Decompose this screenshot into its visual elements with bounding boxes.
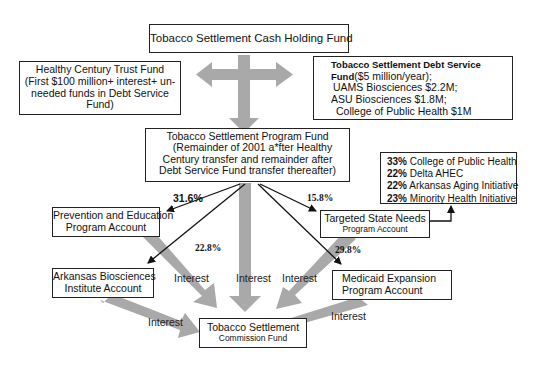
prevention-line-2: Program Account bbox=[53, 222, 159, 234]
allocation-item: 22% Delta AHEC bbox=[387, 168, 516, 180]
interest-label-medicaid: Interest bbox=[331, 310, 366, 322]
allocation-item: 33% College of Public Health bbox=[387, 156, 516, 168]
biosciences-line-1: Arkansas Biosciences bbox=[53, 271, 153, 283]
cash-holding-fund-box: Tobacco Settlement Cash Holding Fund bbox=[149, 24, 349, 53]
debt-service-box: Tobacco Settlement Debt Service Fund($5 … bbox=[313, 56, 513, 120]
interest-label-center: Interest bbox=[236, 272, 271, 284]
cash-holding-fund-title: Tobacco Settlement Cash Holding Fund bbox=[150, 32, 348, 45]
prevention-percentage: 31.6% bbox=[173, 192, 203, 204]
targeted-needs-box: Targeted State Needs Program Account bbox=[320, 210, 430, 238]
allocation-item: 22% Arkansas Aging Initiative bbox=[387, 180, 516, 192]
interest-label-biosciences: Interest bbox=[148, 316, 183, 328]
healthy-century-box: Healthy Century Trust Fund (First $100 m… bbox=[19, 61, 181, 115]
targeted-line-1: Targeted State Needs bbox=[321, 213, 429, 225]
prevention-line-1: Prevention and Education bbox=[53, 210, 159, 222]
arrow-targeted-to-allocations bbox=[430, 206, 451, 221]
interest-label-targeted: Interest bbox=[282, 272, 317, 284]
medicaid-percentage: 29.8% bbox=[335, 245, 361, 255]
prevention-box: Prevention and Education Program Account bbox=[52, 207, 160, 237]
debt-service-amount: ($5 million/year); bbox=[354, 70, 432, 82]
interest-label-prevention: Interest bbox=[174, 272, 209, 284]
program-fund-line: (Remainder of 2001 a*fter Healthy bbox=[146, 142, 349, 153]
healthy-century-title: Healthy Century Trust Fund bbox=[20, 64, 180, 76]
biosciences-box: Arkansas Biosciences Institute Account bbox=[52, 268, 154, 298]
commission-line-1: Tobacco Settlement bbox=[200, 322, 306, 334]
medicaid-line-1: Medicaid Expansion bbox=[342, 273, 451, 285]
targeted-line-2: Program Account bbox=[321, 225, 429, 235]
medicaid-line-2: Program Account bbox=[342, 285, 451, 297]
debt-service-item: College of Public Health $1M bbox=[331, 106, 512, 118]
program-fund-box: Tobacco Settlement Program Fund (Remaind… bbox=[145, 128, 350, 182]
biosciences-line-2: Institute Account bbox=[53, 283, 153, 295]
cross-split-arrow bbox=[196, 55, 293, 133]
healthy-century-line: Fund) bbox=[20, 99, 180, 111]
allocation-item: 23% Minority Health Initiative bbox=[387, 193, 516, 205]
healthy-century-line: (First $100 million+ interest+ un- bbox=[20, 76, 180, 88]
allocations-box: 33% College of Public Health 22% Delta A… bbox=[380, 152, 517, 204]
medicaid-box: Medicaid Expansion Program Account bbox=[332, 270, 452, 300]
center-interest-arrow bbox=[229, 183, 261, 312]
program-fund-line: Debt Service Fund transfer thereafter) bbox=[146, 165, 349, 176]
biosciences-percentage: 22.8% bbox=[195, 243, 221, 253]
debt-service-title-2: Fund bbox=[331, 71, 354, 82]
targeted-percentage: 15.8% bbox=[307, 193, 333, 203]
commission-line-2: Commission Fund bbox=[200, 334, 306, 344]
commission-fund-box: Tobacco Settlement Commission Fund bbox=[199, 318, 307, 348]
